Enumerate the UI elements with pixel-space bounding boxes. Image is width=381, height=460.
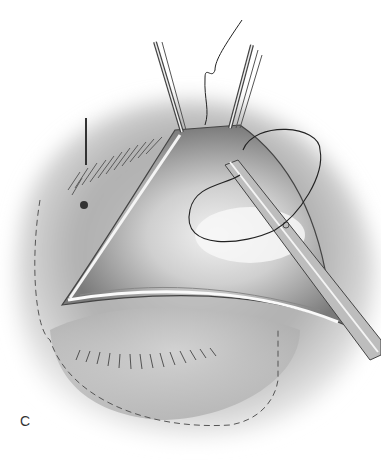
skin-mole — [80, 201, 88, 209]
illustration-canvas — [0, 0, 381, 460]
panel-label: C — [20, 413, 30, 429]
surgical-illustration: C — [0, 0, 381, 460]
